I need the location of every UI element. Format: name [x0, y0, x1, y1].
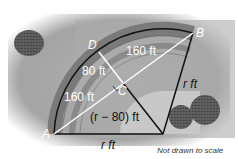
- point-c-label: C: [118, 84, 127, 98]
- dc-length-label: 80 ft: [82, 64, 105, 78]
- center-c-length-label: (r − 80) ft: [90, 110, 139, 124]
- diagram-canvas: [0, 0, 238, 159]
- scale-note: Not drawn to scale: [157, 146, 223, 155]
- radius-bottom-label: r ft: [101, 138, 115, 152]
- db-length-label: 160 ft: [126, 44, 156, 58]
- bush-icon: [14, 30, 44, 56]
- bush-icon: [190, 95, 220, 125]
- point-d-label: D: [88, 38, 97, 52]
- bush-icon: [169, 105, 193, 129]
- geometry-diagram: A B C D 160 ft 80 ft 160 ft (r − 80) ft …: [0, 0, 238, 159]
- point-b-label: B: [196, 26, 204, 40]
- point-a-label: A: [42, 127, 50, 141]
- ad-length-label: 160 ft: [64, 90, 94, 104]
- radius-right-label: r ft: [183, 77, 197, 91]
